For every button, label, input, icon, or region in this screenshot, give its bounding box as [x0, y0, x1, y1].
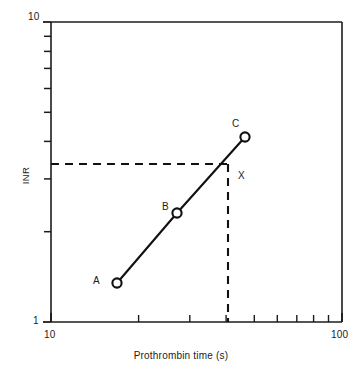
x-axis-title: Prothrombin time (s)	[0, 350, 362, 361]
data-point-c	[240, 132, 249, 141]
y-axis-title: INR	[20, 146, 31, 206]
data-point-label-b: B	[162, 201, 169, 212]
chart-figure	[0, 0, 362, 373]
y-axis-top-label: 10	[28, 11, 40, 22]
data-point-label-c: C	[232, 118, 239, 129]
data-point-b	[172, 208, 181, 217]
data-point-label-a: A	[93, 275, 100, 286]
annotation-label-x: X	[238, 170, 245, 181]
figure-background	[0, 0, 362, 373]
data-point-a	[112, 278, 121, 287]
x-axis-right-label: 100	[331, 329, 348, 340]
y-axis-bottom-label: 1	[33, 315, 39, 326]
x-axis-left-label: 10	[44, 329, 56, 340]
